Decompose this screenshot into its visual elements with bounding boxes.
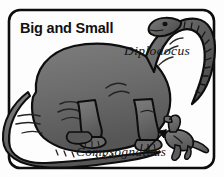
label-diplodocus: Diplodocus xyxy=(123,43,190,58)
diplodocus-front-foot-far xyxy=(67,132,92,144)
label-compsognathus: Compsognathus xyxy=(76,144,166,159)
illustration-canvas: Big and Small Diplodocus Compsognathus xyxy=(0,0,224,177)
page-title: Big and Small xyxy=(20,20,113,36)
compsognathus-eye xyxy=(169,118,171,120)
dinosaur-illustration: Big and Small Diplodocus Compsognathus xyxy=(0,0,224,177)
diplodocus-eye xyxy=(162,22,167,26)
